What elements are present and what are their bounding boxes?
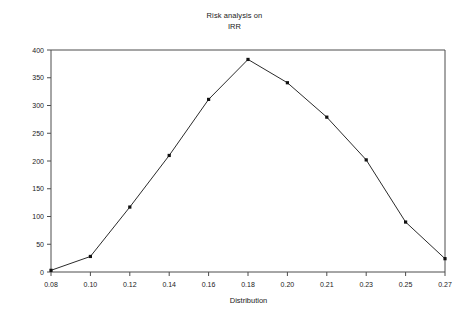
data-series-markers (49, 58, 446, 272)
data-point-marker (89, 255, 92, 258)
x-tick-label: 0.27 (438, 281, 452, 288)
x-tick-label: 0.08 (44, 281, 58, 288)
plot-area: 050100150200250300350400 0.080.100.120.1… (0, 0, 469, 322)
y-tick-label: 250 (32, 130, 44, 137)
y-tick-label: 300 (32, 102, 44, 109)
y-tick-label: 100 (32, 213, 44, 220)
plot-frame (51, 50, 445, 272)
y-tick-label: 150 (32, 185, 44, 192)
x-axis-ticks: 0.080.100.120.140.160.180.200.210.230.25… (44, 272, 452, 288)
x-tick-label: 0.20 (281, 281, 295, 288)
y-tick-label: 200 (32, 158, 44, 165)
data-point-marker (128, 205, 131, 208)
x-tick-label: 0.10 (84, 281, 98, 288)
x-tick-label: 0.12 (123, 281, 137, 288)
x-axis-label: Distribution (51, 296, 446, 305)
x-tick-label: 0.23 (359, 281, 373, 288)
y-tick-label: 50 (36, 241, 44, 248)
y-tick-label: 350 (32, 74, 44, 81)
y-tick-label: 400 (32, 47, 44, 54)
x-tick-label: 0.16 (202, 281, 216, 288)
x-tick-label: 0.21 (320, 281, 334, 288)
x-tick-label: 0.18 (241, 281, 255, 288)
data-point-marker (286, 81, 289, 84)
data-point-marker (49, 269, 52, 272)
data-series-line (51, 59, 445, 270)
data-point-marker (404, 220, 407, 223)
data-point-marker (168, 154, 171, 157)
data-point-marker (207, 98, 210, 101)
y-tick-label: 0 (40, 269, 44, 276)
x-tick-label: 0.25 (399, 281, 413, 288)
chart-container: Risk analysis on IRR 0501001502002503003… (0, 0, 469, 322)
data-point-marker (325, 116, 328, 119)
data-point-marker (443, 257, 446, 260)
data-point-marker (365, 158, 368, 161)
y-axis-ticks: 050100150200250300350400 (32, 47, 51, 276)
x-tick-label: 0.14 (162, 281, 176, 288)
data-point-marker (246, 58, 249, 61)
